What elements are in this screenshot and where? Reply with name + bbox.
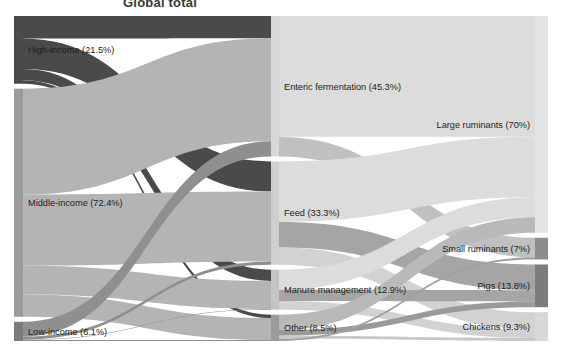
sankey-node-low[interactable] — [14, 322, 23, 341]
sankey-node-label-high: High-income (21.5%) — [28, 45, 114, 55]
sankey-node-label-chick: Chickens (9.3%) — [463, 322, 530, 332]
sankey-svg-canvas: High-income (21.5%)Middle-income (72.4%)… — [0, 0, 563, 348]
sankey-node-chick[interactable] — [535, 312, 548, 341]
sankey-node-label-middle: Middle-income (72.4%) — [28, 198, 122, 208]
sankey-node-label-manure: Manure management (12.9%) — [284, 285, 406, 295]
sankey-node-other[interactable] — [271, 315, 279, 341]
sankey-node-feed[interactable] — [271, 161, 279, 264]
sankey-link-low-to-other[interactable] — [23, 340, 271, 341]
sankey-node-pigs[interactable] — [535, 264, 548, 307]
sankey-node-label-other: Other (8.5%) — [284, 323, 337, 333]
sankey-diagram-root: Global total High-income (21.5%)Middle-i… — [0, 0, 563, 348]
sankey-node-label-large: Large ruminants (70%) — [437, 120, 530, 130]
sankey-link-enteric-to-large[interactable] — [279, 16, 535, 137]
sankey-node-large[interactable] — [535, 16, 548, 233]
sankey-node-label-low: Low-income (6.1%) — [28, 327, 107, 337]
sankey-node-enteric[interactable] — [271, 16, 279, 156]
sankey-node-manure[interactable] — [271, 270, 279, 310]
sankey-node-label-pigs: Pigs (13.8%) — [477, 281, 530, 291]
sankey-node-label-enteric: Enteric fermentation (45.3%) — [284, 82, 401, 92]
sankey-node-label-small: Small ruminants (7%) — [442, 244, 530, 254]
sankey-node-label-feed: Feed (33.3%) — [284, 208, 340, 218]
sankey-node-small[interactable] — [535, 238, 548, 260]
sankey-node-middle[interactable] — [14, 89, 23, 317]
sankey-link-high-to-enteric[interactable] — [23, 16, 271, 39]
sankey-node-high[interactable] — [14, 16, 23, 84]
